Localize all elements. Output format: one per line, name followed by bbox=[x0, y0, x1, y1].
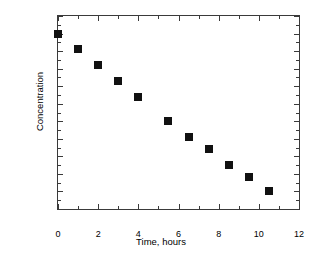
y-axis-tick bbox=[58, 139, 63, 140]
y-axis-tick bbox=[58, 209, 63, 210]
plot-area bbox=[58, 16, 299, 209]
y-axis-minor-tick bbox=[58, 200, 61, 201]
y-axis-tick-right bbox=[294, 139, 299, 140]
y-axis-minor-tick-right bbox=[296, 183, 299, 184]
x-axis-title: Time, hours bbox=[0, 236, 322, 247]
y-axis-tick-right bbox=[294, 69, 299, 70]
data-point-marker bbox=[205, 145, 213, 153]
y-axis-minor-tick-right bbox=[296, 148, 299, 149]
x-axis-minor-tick-top bbox=[199, 16, 200, 19]
x-axis-tick-top bbox=[138, 16, 139, 21]
plot-frame: 00.10.20.30.40.50.60.70.80.911.102468101… bbox=[57, 15, 300, 210]
data-point-marker bbox=[54, 30, 62, 38]
data-point-marker bbox=[265, 187, 273, 195]
y-axis-minor-tick-right bbox=[296, 77, 299, 78]
data-point-marker bbox=[114, 77, 122, 85]
y-axis-tick bbox=[58, 174, 63, 175]
x-axis-minor-tick-top bbox=[158, 16, 159, 19]
x-axis-minor-tick bbox=[239, 206, 240, 209]
chart-figure: 00.10.20.30.40.50.60.70.80.911.102468101… bbox=[0, 0, 322, 260]
x-axis-minor-tick bbox=[158, 206, 159, 209]
x-axis-minor-tick bbox=[118, 206, 119, 209]
x-axis-minor-tick-top bbox=[118, 16, 119, 19]
data-point-marker bbox=[225, 161, 233, 169]
y-axis-tick-right bbox=[294, 174, 299, 175]
y-axis-title: Concentration bbox=[34, 22, 45, 182]
y-axis-tick bbox=[58, 156, 63, 157]
y-axis-minor-tick bbox=[58, 25, 61, 26]
y-axis-tick-right bbox=[294, 51, 299, 52]
y-axis-tick-right bbox=[294, 191, 299, 192]
x-axis-minor-tick-top bbox=[239, 16, 240, 19]
x-axis-tick-top bbox=[179, 16, 180, 21]
y-axis-minor-tick-right bbox=[296, 200, 299, 201]
x-axis-tick-top bbox=[299, 16, 300, 21]
x-axis-minor-tick-top bbox=[279, 16, 280, 19]
x-axis-tick bbox=[299, 204, 300, 209]
x-axis-tick-top bbox=[98, 16, 99, 21]
y-axis-tick bbox=[58, 191, 63, 192]
y-axis-minor-tick bbox=[58, 60, 61, 61]
x-axis-tick bbox=[179, 204, 180, 209]
x-axis-minor-tick bbox=[279, 206, 280, 209]
y-axis-tick-right bbox=[294, 34, 299, 35]
y-axis-tick bbox=[58, 104, 63, 105]
y-axis-tick-right bbox=[294, 209, 299, 210]
x-axis-tick bbox=[58, 204, 59, 209]
data-point-marker bbox=[134, 93, 142, 101]
y-axis-minor-tick-right bbox=[296, 60, 299, 61]
y-axis-tick bbox=[58, 86, 63, 87]
y-axis-minor-tick bbox=[58, 77, 61, 78]
y-axis-minor-tick bbox=[58, 113, 61, 114]
x-axis-minor-tick bbox=[78, 206, 79, 209]
data-point-marker bbox=[185, 133, 193, 141]
y-axis-minor-tick-right bbox=[296, 165, 299, 166]
data-point-marker bbox=[245, 173, 253, 181]
y-axis-minor-tick-right bbox=[296, 130, 299, 131]
y-axis-minor-tick bbox=[58, 165, 61, 166]
y-axis-minor-tick bbox=[58, 42, 61, 43]
y-axis-tick bbox=[58, 69, 63, 70]
y-axis-tick-right bbox=[294, 86, 299, 87]
y-axis-minor-tick bbox=[58, 95, 61, 96]
x-axis-minor-tick-top bbox=[78, 16, 79, 19]
y-axis-minor-tick bbox=[58, 183, 61, 184]
x-axis-tick-top bbox=[259, 16, 260, 21]
y-axis-minor-tick-right bbox=[296, 95, 299, 96]
x-axis-tick bbox=[138, 204, 139, 209]
y-axis-minor-tick-right bbox=[296, 113, 299, 114]
x-axis-tick bbox=[98, 204, 99, 209]
y-axis-minor-tick bbox=[58, 148, 61, 149]
y-axis-minor-tick-right bbox=[296, 42, 299, 43]
x-axis-tick bbox=[259, 204, 260, 209]
x-axis-tick-top bbox=[58, 16, 59, 21]
y-axis-tick-right bbox=[294, 104, 299, 105]
y-axis-tick bbox=[58, 51, 63, 52]
x-axis-tick-top bbox=[219, 16, 220, 21]
data-point-marker bbox=[74, 45, 82, 53]
x-axis-minor-tick bbox=[199, 206, 200, 209]
data-point-marker bbox=[164, 117, 172, 125]
y-axis-tick-right bbox=[294, 156, 299, 157]
data-point-marker bbox=[94, 61, 102, 69]
x-axis-tick bbox=[219, 204, 220, 209]
y-axis-minor-tick-right bbox=[296, 25, 299, 26]
y-axis-tick-right bbox=[294, 121, 299, 122]
y-axis-minor-tick bbox=[58, 130, 61, 131]
y-axis-tick bbox=[58, 121, 63, 122]
